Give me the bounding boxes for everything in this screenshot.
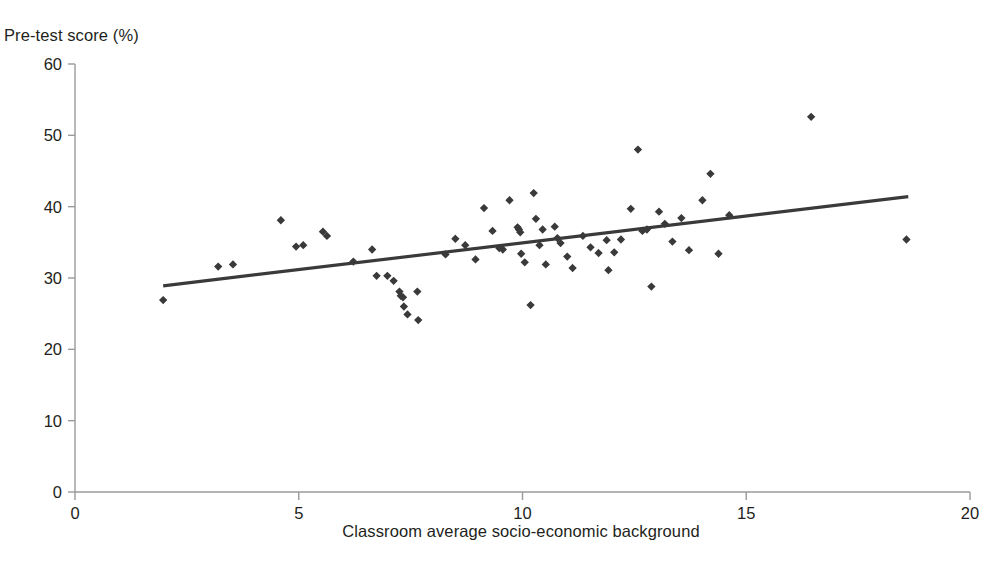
data-point	[707, 171, 713, 177]
data-point	[604, 237, 610, 243]
regression-line	[163, 197, 908, 286]
data-point	[628, 206, 634, 212]
x-tick-label: 20	[961, 504, 979, 522]
data-point	[374, 273, 380, 279]
data-point	[401, 303, 407, 309]
x-tick-label: 0	[70, 504, 79, 522]
data-point	[540, 226, 546, 232]
y-tick-label: 50	[44, 126, 62, 144]
data-point	[587, 244, 593, 250]
data-point	[531, 190, 537, 196]
data-point	[472, 256, 478, 262]
data-point	[618, 236, 624, 242]
data-point	[570, 265, 576, 271]
x-tick-label: 10	[513, 504, 531, 522]
data-point	[595, 250, 601, 256]
y-tick-label: 20	[44, 340, 62, 358]
data-point	[414, 288, 420, 294]
data-point	[669, 239, 675, 245]
data-point	[481, 205, 487, 211]
data-point	[605, 267, 611, 273]
data-point	[300, 242, 306, 248]
y-tick-label: 40	[44, 198, 62, 216]
data-point	[489, 228, 495, 234]
data-point	[611, 249, 617, 255]
y-tick-label: 0	[53, 483, 62, 501]
tick-labels-group: 010203040506005101520	[44, 55, 980, 522]
data-point	[404, 311, 410, 317]
y-tick-label: 60	[44, 55, 62, 73]
data-point	[391, 278, 397, 284]
data-point	[533, 216, 539, 222]
data-points-group	[160, 114, 909, 324]
data-point	[230, 261, 236, 267]
x-axis-label-wrap: Classroom average socio-economic backgro…	[0, 522, 996, 541]
data-point	[215, 263, 221, 269]
scatter-chart: Pre-test score (%) 010203040506005101520…	[0, 0, 996, 561]
plot-area: 010203040506005101520	[0, 0, 996, 561]
data-point	[462, 242, 468, 248]
data-point	[678, 215, 684, 221]
data-point	[278, 217, 284, 223]
data-point	[527, 302, 533, 308]
data-point	[415, 317, 421, 323]
data-point	[384, 273, 390, 279]
data-point	[522, 259, 528, 265]
data-point	[543, 261, 549, 267]
axes-group	[75, 64, 970, 492]
data-point	[686, 247, 692, 253]
x-axis-label: Classroom average socio-economic backgro…	[342, 522, 699, 541]
y-tick-label: 30	[44, 269, 62, 287]
data-point	[564, 254, 570, 260]
data-point	[635, 147, 641, 153]
data-point	[518, 251, 524, 257]
trend-line	[163, 197, 908, 286]
data-point	[160, 297, 166, 303]
data-point	[699, 197, 705, 203]
x-tick-label: 15	[737, 504, 755, 522]
y-tick-label: 10	[44, 412, 62, 430]
data-point	[715, 251, 721, 257]
data-point	[656, 209, 662, 215]
data-point	[506, 197, 512, 203]
data-point	[808, 114, 814, 120]
data-point	[552, 224, 558, 230]
data-point	[648, 283, 654, 289]
data-point	[293, 244, 299, 250]
data-point	[452, 236, 458, 242]
x-tick-label: 5	[294, 504, 303, 522]
data-point	[903, 236, 909, 242]
data-point	[536, 242, 542, 248]
data-point	[369, 246, 375, 252]
